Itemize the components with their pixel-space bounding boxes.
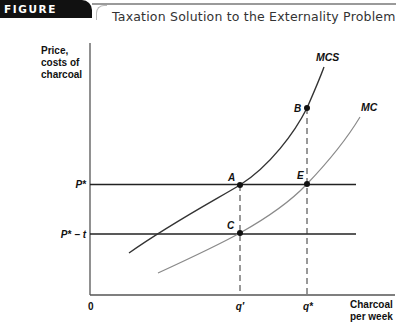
point-c-marker <box>237 230 243 236</box>
x-tick-q-prime: q′ <box>236 301 245 312</box>
mc-curve <box>158 117 360 273</box>
point-e-marker <box>304 181 310 187</box>
chart-plot-area: A B C E MCS MC P* P* − t 0 q′ q* <box>0 0 415 336</box>
mcs-curve-label: MCS <box>316 51 339 63</box>
y-tick-p-star-minus-t: P* − t <box>61 229 87 240</box>
point-a-marker <box>237 182 243 188</box>
point-b-label: B <box>294 103 301 114</box>
mc-curve-label: MC <box>361 101 378 113</box>
origin-label: 0 <box>88 301 94 312</box>
x-tick-q-star: q* <box>303 301 314 312</box>
point-a-label: A <box>227 172 235 183</box>
y-tick-p-star: P* <box>75 179 87 190</box>
point-b-marker <box>304 105 310 111</box>
point-c-label: C <box>227 220 235 231</box>
point-e-label: E <box>297 170 304 181</box>
